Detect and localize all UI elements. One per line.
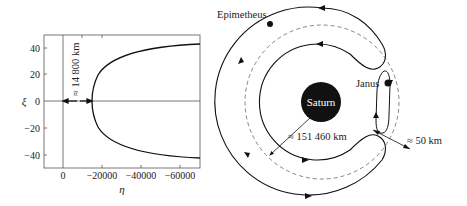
- epimetheus-label: Epimetheus: [217, 9, 267, 20]
- distance-annotation: ≈ 14 800 km: [70, 43, 81, 96]
- janus-dot: [385, 80, 392, 87]
- ticks: [44, 35, 180, 168]
- saturn-label: Saturn: [307, 96, 336, 108]
- x-tick-labels: 0 −20000 −40000 −60000: [61, 170, 196, 181]
- svg-text:0: 0: [35, 96, 40, 107]
- svg-text:0: 0: [61, 170, 66, 181]
- orbit-diagram: Saturn ≈ 151 460 km Epimetheus Janus ≈ 5…: [215, 5, 442, 199]
- janus-label: Janus: [356, 78, 379, 89]
- svg-text:20: 20: [30, 69, 40, 80]
- width-label: ≈ 50 km: [407, 135, 442, 146]
- horseshoe-plot: ≈ 14 800 km 40 20 0 −20 −40 0 −20000 −40…: [22, 35, 200, 195]
- x-axis-label: η: [119, 183, 124, 195]
- y-tick-labels: 40 20 0 −20 −40: [24, 43, 40, 161]
- svg-text:−60000: −60000: [165, 170, 196, 181]
- y-axis-label: ξ: [22, 95, 27, 108]
- svg-text:−40: −40: [24, 150, 40, 161]
- figure: ≈ 14 800 km 40 20 0 −20 −40 0 −20000 −40…: [0, 0, 467, 206]
- epimetheus-dot: [267, 21, 273, 27]
- svg-text:−40000: −40000: [126, 170, 157, 181]
- svg-text:−20000: −20000: [87, 170, 118, 181]
- svg-text:−20: −20: [24, 123, 40, 134]
- width-arrow-start: [373, 130, 380, 135]
- svg-text:40: 40: [30, 43, 40, 54]
- radius-label: ≈ 151 460 km: [288, 131, 347, 142]
